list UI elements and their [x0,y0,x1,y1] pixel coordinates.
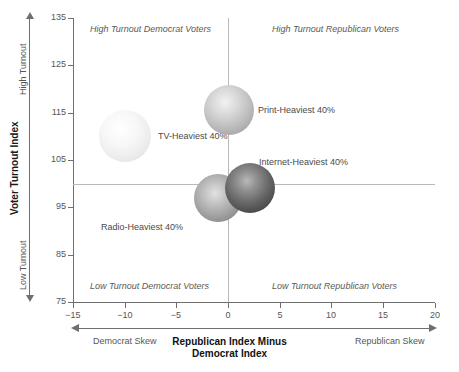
x-axis-title: Republican Index Minus Democrat Index [0,336,459,360]
y-axis-title: Voter Turnout Index [9,121,20,215]
quadrant-label-bottom-left: Low Turnout Democrat Voters [90,281,209,291]
x-tick-label-neg5: −5 [156,310,196,320]
quadrant-label-bottom-right: Low Turnout Republican Voters [272,281,397,291]
y-axis-low-turnout-label: Low Turnout [18,240,28,290]
y-tick-115 [68,113,73,114]
bubble-print-heaviest[interactable] [204,85,254,135]
y-tick-label-105: 105 [44,154,66,164]
x-tick-label-neg10: −10 [105,310,145,320]
x-axis-title-line1: Republican Index Minus [0,336,459,348]
y-tick-label-75: 75 [44,296,66,306]
bubble-internet-heaviest[interactable] [225,163,275,213]
x-tick-10 [331,303,332,308]
x-tick-neg10 [125,303,126,308]
bubble-chart: High Turnout Voter Turnout Index Low Tur… [0,0,459,372]
x-tick-label-20: 20 [415,310,455,320]
y-tick-label-95: 95 [44,201,66,211]
bubble-label-print-heaviest: Print-Heaviest 40% [258,105,335,115]
y-axis-rail [29,19,30,296]
skew-axis-line [78,328,430,329]
y-tick-label-135: 135 [44,12,66,22]
y-axis-down-arrow-icon [26,295,34,302]
y-tick-85 [68,255,73,256]
y-tick-95 [68,207,73,208]
quadrant-label-top-left: High Turnout Democrat Voters [90,24,211,34]
x-tick-label-neg15: −15 [53,310,93,320]
x-tick-0 [228,303,229,308]
x-tick-label-0: 0 [208,310,248,320]
y-tick-label-115: 115 [44,107,66,117]
x-axis-line [73,302,435,303]
y-axis-line [73,18,74,302]
y-tick-label-125: 125 [44,59,66,69]
bubble-label-internet-heaviest: Internet-Heaviest 40% [259,157,348,167]
y-tick-135 [68,18,73,19]
x-tick-15 [383,303,384,308]
gridline-x-zero [228,18,229,302]
x-tick-label-10: 10 [311,310,351,320]
bubble-label-radio-heaviest: Radio-Heaviest 40% [101,222,183,232]
bubble-label-tv-heaviest: TV-Heaviest 40% [158,131,228,141]
y-axis-up-arrow-icon [26,12,34,19]
x-tick-5 [280,303,281,308]
x-tick-neg5 [176,303,177,308]
quadrant-label-top-right: High Turnout Republican Voters [272,24,399,34]
republican-skew-arrow-icon [429,324,437,332]
y-tick-125 [68,65,73,66]
x-tick-neg15 [73,303,74,308]
x-axis-title-line2: Democrat Index [0,348,459,360]
x-tick-20 [435,303,436,308]
x-tick-label-15: 15 [363,310,403,320]
bubble-tv-heaviest[interactable] [99,110,151,162]
y-axis-high-turnout-label: High Turnout [18,43,28,95]
x-tick-label-5: 5 [260,310,300,320]
y-tick-105 [68,160,73,161]
y-tick-label-85: 85 [44,249,66,259]
